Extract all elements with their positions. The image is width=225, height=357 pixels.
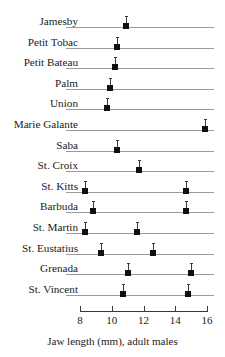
data-point-marker <box>114 147 120 153</box>
error-whisker <box>139 160 140 167</box>
error-whisker <box>85 222 86 229</box>
x-axis: 810121416 Jaw length (mm), adult males <box>0 305 225 357</box>
x-axis-tick-label: 12 <box>131 314 157 327</box>
x-axis-tick <box>175 306 176 312</box>
error-whisker <box>117 140 118 147</box>
error-whisker <box>186 181 187 188</box>
error-whisker <box>188 284 189 291</box>
error-whisker <box>115 57 116 64</box>
error-whisker <box>123 284 124 291</box>
error-whisker <box>137 222 138 229</box>
row-reference-line <box>66 109 214 110</box>
error-whisker-cap <box>122 284 125 285</box>
error-whisker-cap <box>100 243 103 244</box>
x-axis-title: Jaw length (mm), adult males <box>0 335 225 347</box>
error-whisker-cap <box>84 222 87 223</box>
data-point-marker <box>125 270 131 276</box>
dot-plot-chart: JamesbyPetit TobacPetit BateauPalmUnionM… <box>0 0 225 357</box>
error-whisker <box>110 78 111 85</box>
error-whisker-cap <box>114 57 117 58</box>
data-point-marker <box>150 250 156 256</box>
x-axis-tick-label: 16 <box>194 314 220 327</box>
data-point-marker <box>112 64 118 70</box>
error-whisker <box>126 16 127 23</box>
error-whisker-cap <box>185 201 188 202</box>
data-point-marker <box>82 229 88 235</box>
data-point-marker <box>107 85 113 91</box>
error-whisker <box>93 201 94 208</box>
data-point-marker <box>134 229 140 235</box>
error-whisker <box>153 243 154 250</box>
data-point-marker <box>183 188 189 194</box>
x-axis-tick-label: 14 <box>162 314 188 327</box>
x-axis-tick-label: 10 <box>99 314 125 327</box>
data-point-marker <box>104 105 110 111</box>
error-whisker <box>107 98 108 105</box>
x-axis-tick <box>144 306 145 312</box>
error-whisker-cap <box>204 119 207 120</box>
error-whisker <box>186 201 187 208</box>
row-reference-line <box>66 89 214 90</box>
error-whisker-cap <box>109 78 112 79</box>
row-reference-line <box>66 48 214 49</box>
data-point-marker <box>202 126 208 132</box>
data-point-marker <box>114 44 120 50</box>
row-reference-line <box>66 212 214 213</box>
data-point-marker <box>183 208 189 214</box>
row-reference-line <box>66 68 214 69</box>
row-reference-line <box>66 27 214 28</box>
row-reference-line <box>66 295 214 296</box>
data-point-marker <box>90 208 96 214</box>
error-whisker-cap <box>152 243 155 244</box>
error-whisker-cap <box>106 98 109 99</box>
error-whisker-cap <box>84 181 87 182</box>
error-whisker <box>85 181 86 188</box>
x-axis-tick-label: 8 <box>67 314 93 327</box>
data-point-marker <box>185 291 191 297</box>
error-whisker-cap <box>187 284 190 285</box>
error-whisker-cap <box>190 263 193 264</box>
row-reference-line <box>66 130 214 131</box>
data-point-marker <box>136 167 142 173</box>
row-reference-line <box>66 192 214 193</box>
error-whisker <box>205 119 206 126</box>
row-reference-line <box>66 151 214 152</box>
error-whisker-cap <box>92 201 95 202</box>
data-point-marker <box>120 291 126 297</box>
x-axis-tick <box>80 306 81 312</box>
error-whisker-cap <box>127 263 130 264</box>
x-axis-tick <box>207 306 208 312</box>
error-whisker <box>101 243 102 250</box>
error-whisker-cap <box>138 160 141 161</box>
error-whisker-cap <box>116 37 119 38</box>
data-point-marker <box>188 270 194 276</box>
error-whisker <box>117 37 118 44</box>
row-reference-line <box>66 254 214 255</box>
x-axis-tick <box>112 306 113 312</box>
data-point-marker <box>82 188 88 194</box>
error-whisker <box>128 263 129 270</box>
error-whisker-cap <box>116 140 119 141</box>
error-whisker-cap <box>136 222 139 223</box>
error-whisker-cap <box>125 16 128 17</box>
error-whisker <box>191 263 192 270</box>
data-point-marker <box>98 250 104 256</box>
data-point-marker <box>123 23 129 29</box>
error-whisker-cap <box>185 181 188 182</box>
